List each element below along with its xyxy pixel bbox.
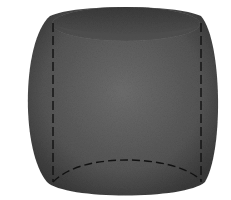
barrel-solid-diagram: [0, 0, 231, 200]
